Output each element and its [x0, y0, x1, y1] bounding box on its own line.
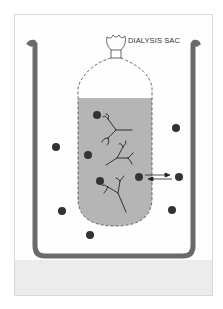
solute-particle — [172, 124, 180, 132]
sac-fluid — [78, 98, 152, 226]
dialysis-diagram — [0, 0, 223, 309]
solute-particle — [93, 111, 101, 119]
solute-particle — [168, 206, 176, 214]
solute-particle — [96, 177, 104, 185]
floor-surface — [15, 260, 212, 295]
sac-knot — [107, 35, 126, 58]
solute-particle — [84, 151, 92, 159]
solute-particle — [52, 143, 60, 151]
solute-particle — [135, 173, 143, 181]
dialysis-sac-label: DIALYSIS SAC — [128, 36, 180, 45]
solute-particle — [86, 231, 94, 239]
solute-particle — [175, 173, 183, 181]
solute-particle — [58, 207, 66, 215]
